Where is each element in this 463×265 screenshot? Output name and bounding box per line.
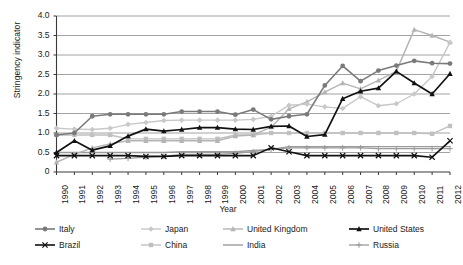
legend-swatch-plus-icon [348, 240, 370, 250]
data-point [90, 133, 94, 137]
data-point [376, 103, 382, 109]
data-point [215, 117, 221, 123]
data-point [54, 126, 60, 132]
x-tick-label: 2001 [257, 185, 266, 204]
legend-item-brazil[interactable]: Brazil [34, 240, 80, 250]
y-tick-label: 0 [24, 167, 50, 176]
data-point [251, 107, 256, 112]
data-point [304, 145, 310, 151]
data-point [358, 79, 363, 84]
y-tick-label: 3.5 [24, 31, 50, 40]
series-line [57, 61, 451, 135]
data-point [322, 104, 328, 110]
data-point [250, 117, 256, 123]
x-tick-label: 1997 [186, 185, 195, 204]
legend-item-russia[interactable]: Russia [348, 240, 399, 250]
plot-svg [0, 0, 456, 200]
x-tick-label: 1993 [114, 185, 123, 204]
series-japan [54, 40, 453, 133]
data-point [448, 124, 452, 128]
legend-item-india[interactable]: India [222, 240, 265, 250]
y-tick-label: 0.5 [24, 148, 50, 157]
data-point [430, 61, 435, 66]
legend-swatch-triangle-filled-icon [348, 224, 370, 234]
x-tick-label: 1998 [204, 185, 213, 204]
data-point [148, 226, 154, 232]
x-tick-label: 2008 [382, 185, 391, 204]
data-point [43, 227, 48, 232]
legend-item-italy[interactable]: Italy [34, 224, 75, 234]
x-tick-label: 1999 [221, 185, 230, 204]
data-point [233, 117, 239, 123]
legend-swatch-triangle-icon [222, 224, 244, 234]
legend-label: United Kingdom [247, 224, 307, 234]
data-point [394, 63, 399, 68]
y-tick-label: 4.0 [24, 11, 50, 20]
legend-swatch-none-icon [222, 240, 244, 250]
y-tick-label: 1.5 [24, 109, 50, 118]
x-tick-label: 1992 [96, 185, 105, 204]
data-point [143, 120, 149, 126]
data-point [412, 27, 417, 32]
data-point [430, 132, 434, 136]
data-point [54, 133, 59, 138]
legend-item-united-states[interactable]: United States [348, 224, 424, 234]
legend-label: Brazil [59, 240, 80, 250]
data-point [179, 117, 185, 123]
data-point [126, 112, 131, 117]
chart-legend: ItalyJapanUnited KingdomUnited StatesBra… [0, 222, 456, 262]
legend-swatch-x-icon [34, 240, 56, 250]
data-point [72, 138, 77, 143]
x-tick-label: 1990 [61, 185, 70, 204]
data-point [161, 118, 167, 124]
data-point [322, 83, 327, 88]
series-line [57, 43, 451, 130]
data-point [412, 58, 417, 63]
legend-label: United States [373, 224, 424, 234]
legend-label: China [165, 240, 187, 250]
legend-item-united-kingdom[interactable]: United Kingdom [222, 224, 307, 234]
data-point [412, 131, 416, 135]
data-point [215, 109, 220, 114]
y-tick-label: 2.5 [24, 70, 50, 79]
x-tick-label: 2006 [347, 185, 356, 204]
legend-label: Italy [59, 224, 75, 234]
legend-item-japan[interactable]: Japan [140, 224, 188, 234]
data-point [356, 242, 362, 248]
x-tick-label: 2009 [400, 185, 409, 204]
data-point [340, 64, 345, 69]
data-point [179, 109, 184, 114]
x-axis-title: Year [0, 204, 456, 214]
y-tick-label: 1.0 [24, 128, 50, 137]
data-point [340, 80, 345, 85]
legend-label: Japan [165, 224, 188, 234]
data-point [108, 133, 112, 137]
y-axis-title: Stringency indicator [12, 5, 22, 115]
data-point [269, 131, 273, 135]
data-point [305, 112, 310, 117]
data-point [448, 61, 453, 66]
x-tick-label: 2003 [293, 185, 302, 204]
plot-area: 00.51.01.52.02.53.03.54.0 19901991199219… [0, 0, 456, 200]
legend-swatch-square-icon [140, 240, 162, 250]
data-point [340, 131, 344, 135]
series-italy [54, 58, 452, 137]
data-point [89, 127, 95, 133]
data-point [144, 112, 149, 117]
x-tick-label: 2000 [239, 185, 248, 204]
legend-label: Russia [373, 240, 399, 250]
x-tick-label: 1995 [150, 185, 159, 204]
data-point [358, 131, 362, 135]
data-point [161, 112, 166, 117]
data-point [394, 101, 400, 107]
data-point [197, 109, 202, 114]
x-tick-label: 2011 [436, 186, 445, 204]
data-point [287, 131, 291, 135]
data-point [358, 145, 364, 151]
legend-item-china[interactable]: China [140, 240, 187, 250]
legend-label: India [247, 240, 265, 250]
data-point [447, 138, 452, 143]
data-point [269, 117, 274, 122]
x-tick-label: 2004 [311, 185, 320, 204]
x-tick-label: 1994 [132, 185, 141, 204]
